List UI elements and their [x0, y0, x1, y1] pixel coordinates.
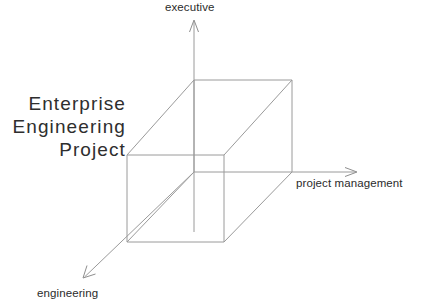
cube-depth-edges [127, 80, 292, 242]
cube-edge-depth-bottom-left [127, 172, 194, 242]
enterprise-engineering-project-diagram: Enterprise Engineering Project executive… [0, 0, 422, 305]
cube-back-face [194, 80, 292, 172]
axis-label-engineering: engineering [37, 287, 98, 300]
cube-edge-depth-top-right [224, 80, 292, 155]
diagram-title-line-3: Project [4, 138, 126, 161]
cube-edge-depth-top-left [127, 80, 194, 155]
diagram-title: Enterprise Engineering Project [4, 92, 126, 161]
axis-engineering-line [85, 172, 195, 277]
axis-label-executive: executive [165, 1, 214, 14]
diagram-title-line-2: Engineering [4, 115, 126, 138]
axis-project-management [292, 168, 357, 177]
cube-edge-depth-bottom-right [224, 172, 292, 242]
cube-wireframe [127, 80, 292, 242]
axis-engineering [83, 172, 194, 278]
cube-front-face [127, 155, 224, 242]
diagram-title-line-1: Enterprise [4, 92, 126, 115]
axis-label-project-management: project management [296, 177, 403, 190]
